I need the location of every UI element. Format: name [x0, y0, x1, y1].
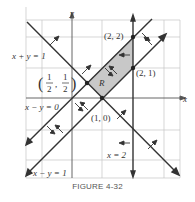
paren-close: )	[71, 75, 76, 93]
point-label-2-1: (2, 1)	[136, 68, 156, 78]
frac2-den: 2	[63, 84, 68, 94]
line-label-x-plus-y-eq-1: x + y = 1	[11, 51, 46, 61]
y-axis-label: y	[69, 8, 74, 18]
frac2-num: 1	[63, 72, 68, 82]
figure-canvas: y x R x + y = 1 x − y = 0 x − y = 1 x = …	[0, 0, 195, 182]
comma: ,	[55, 79, 57, 89]
point-label-2-2: (2, 2)	[104, 31, 124, 41]
figure-caption: FIGURE 4-32	[0, 182, 195, 191]
frac1-num: 1	[47, 72, 52, 82]
paren-open: (	[38, 75, 43, 93]
x-axis-label: x	[182, 94, 187, 104]
region-label: R	[98, 78, 105, 88]
point-label-1-0: (1, 0)	[91, 113, 111, 123]
line-label-x-minus-y-eq-1: x − y = 1	[32, 168, 67, 178]
point-label-half-half: ( 1 2 , 1 2 )	[38, 72, 76, 94]
line-label-x-eq-2: x = 2	[106, 150, 127, 160]
line-label-x-minus-y-eq-0: x − y = 0	[24, 102, 59, 112]
frac1-den: 2	[47, 84, 52, 94]
